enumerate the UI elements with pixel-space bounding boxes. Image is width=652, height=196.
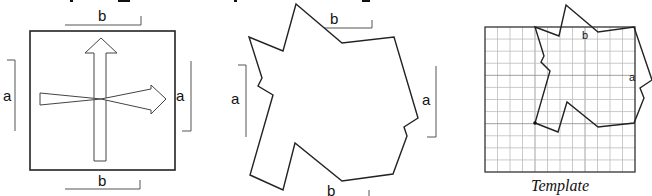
template-caption: Template	[531, 177, 589, 195]
panel-square: b b a a	[3, 7, 191, 189]
anchor-point	[533, 121, 537, 125]
label-a-right: a	[422, 91, 431, 108]
clipped-top-text	[70, 0, 370, 2]
label-a-right: a	[176, 87, 185, 104]
figure-canvas: b b a a b a a b b a Template	[0, 0, 652, 196]
label-b-top: b	[98, 7, 106, 24]
label-b: b	[582, 29, 588, 41]
label-a: a	[629, 71, 636, 83]
label-b-top: b	[330, 10, 338, 27]
label-b-bottom: b	[98, 172, 106, 189]
label-a-left: a	[231, 90, 240, 107]
label-a-left: a	[3, 87, 12, 104]
panel-template: b a Template	[485, 5, 652, 195]
label-b-bottom: b	[327, 182, 335, 196]
tile-shape	[249, 4, 418, 190]
template-grid	[485, 27, 635, 172]
panel-tile: b a a b	[231, 4, 436, 196]
